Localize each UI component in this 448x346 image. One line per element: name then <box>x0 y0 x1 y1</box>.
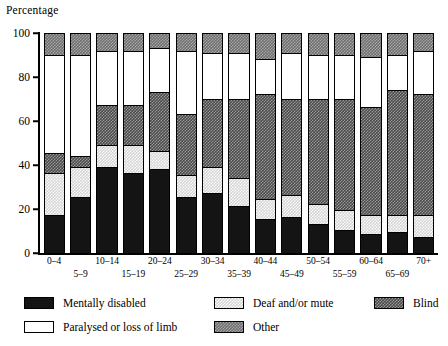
x-axis-label: 10–14 <box>95 256 119 266</box>
bar-10-14[interactable] <box>96 33 117 253</box>
bar-segment <box>414 95 433 215</box>
bar-20-24[interactable] <box>149 33 170 253</box>
bar-segment <box>414 52 433 96</box>
legend-swatch-icon <box>24 297 54 309</box>
x-axis-label: 35–39 <box>227 269 251 279</box>
bar-50-54[interactable] <box>308 33 329 253</box>
chart-legend: Mentally disabledDeaf and/or muteBlindPa… <box>24 297 436 341</box>
bar-segment <box>335 34 354 56</box>
bar-segment <box>203 34 222 54</box>
bar-segment <box>97 106 116 145</box>
bar-segment <box>335 211 354 231</box>
legend-item[interactable]: Mentally disabled <box>24 297 146 309</box>
bar-60-64[interactable] <box>360 33 381 253</box>
bar-segment <box>124 146 143 174</box>
bar-segment <box>388 34 407 56</box>
legend-label: Blind <box>413 297 439 309</box>
bar-0-4[interactable] <box>44 33 65 253</box>
bar-55-59[interactable] <box>334 33 355 253</box>
bar-segment <box>203 194 222 253</box>
legend-item[interactable]: Other <box>214 321 279 333</box>
bar-segment <box>97 168 116 253</box>
bar-segment <box>124 34 143 52</box>
legend-label: Other <box>253 321 279 333</box>
y-axis-tick-label: 60 <box>0 115 30 127</box>
x-axis-label: 45–49 <box>280 269 304 279</box>
bar-segment <box>229 179 248 207</box>
x-axis-label: 65–69 <box>386 269 410 279</box>
bar-segment <box>256 34 275 60</box>
bar-segment <box>229 100 248 179</box>
x-axis-label: 15–19 <box>122 269 146 279</box>
bar-15-19[interactable] <box>123 33 144 253</box>
bar-segment <box>45 154 64 174</box>
bar-5-9[interactable] <box>70 33 91 253</box>
y-axis-tick-label: 20 <box>0 203 30 215</box>
y-axis-tick-mark <box>33 252 39 254</box>
bar-segment <box>97 146 116 168</box>
bar-segment <box>203 54 222 100</box>
bar-segment <box>229 34 248 54</box>
legend-item[interactable]: Deaf and/or mute <box>214 297 333 309</box>
bar-segment <box>414 34 433 52</box>
bar-segment <box>361 58 380 108</box>
bar-segment <box>177 34 196 52</box>
bar-65-69[interactable] <box>387 33 408 253</box>
bar-segment <box>414 238 433 253</box>
bar-segment <box>282 100 301 196</box>
legend-swatch-icon <box>374 297 404 309</box>
legend-item[interactable]: Paralysed or loss of limb <box>24 321 177 333</box>
y-axis-tick-mark <box>33 32 39 34</box>
bar-segment <box>71 198 90 253</box>
bar-segment <box>71 157 90 168</box>
bar-segment <box>282 218 301 253</box>
bar-segment <box>71 56 90 157</box>
bar-segment <box>309 225 328 253</box>
y-axis-tick-mark <box>33 208 39 210</box>
bar-segment <box>309 34 328 56</box>
bar-segment <box>177 52 196 116</box>
bar-segment <box>124 174 143 253</box>
x-axis-label: 30–34 <box>201 256 225 266</box>
bar-segment <box>124 106 143 145</box>
bar-segment <box>71 168 90 199</box>
bar-35-39[interactable] <box>228 33 249 253</box>
bar-25-29[interactable] <box>176 33 197 253</box>
x-axis-label: 50–54 <box>306 256 330 266</box>
x-axis-label: 70+ <box>416 256 431 266</box>
y-axis-tick-label: 80 <box>0 71 30 83</box>
bar-segment <box>309 56 328 100</box>
bar-70+[interactable] <box>413 33 434 253</box>
bar-segment <box>388 56 407 91</box>
y-axis-tick-label: 40 <box>0 159 30 171</box>
bar-segment <box>256 60 275 95</box>
y-axis-tick-mark <box>33 164 39 166</box>
bar-segment <box>361 216 380 236</box>
y-axis-title: Percentage <box>6 4 58 16</box>
legend-label: Paralysed or loss of limb <box>63 321 177 333</box>
chart-root: Percentage 020406080100 0–45–910–1415–19… <box>0 0 448 346</box>
bar-segment <box>361 34 380 58</box>
bar-segment <box>150 170 169 253</box>
y-axis-line <box>38 32 40 255</box>
bar-segment <box>177 198 196 253</box>
bar-segment <box>229 54 248 100</box>
x-axis-line <box>38 253 438 255</box>
x-axis-label: 25–29 <box>174 269 198 279</box>
x-axis-label: 40–44 <box>254 256 278 266</box>
bar-segment <box>203 100 222 168</box>
bar-30-34[interactable] <box>202 33 223 253</box>
bar-segment <box>71 34 90 56</box>
bar-segment <box>335 231 354 253</box>
y-axis-tick-mark <box>33 76 39 78</box>
y-axis-tick-label: 0 <box>0 247 30 259</box>
bar-segment <box>97 52 116 107</box>
x-axis-label: 0–4 <box>47 256 61 266</box>
bar-segment <box>335 56 354 100</box>
bar-segment <box>45 216 64 253</box>
bar-segment <box>309 205 328 225</box>
bar-45-49[interactable] <box>281 33 302 253</box>
bar-40-44[interactable] <box>255 33 276 253</box>
legend-item[interactable]: Blind <box>374 297 439 309</box>
bar-segment <box>150 93 169 152</box>
